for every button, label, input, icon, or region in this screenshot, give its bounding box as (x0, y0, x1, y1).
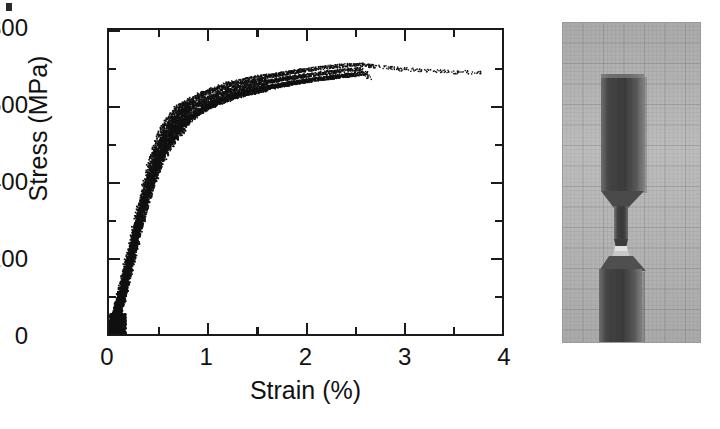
x-tick-label-0: 0 (100, 345, 113, 369)
x-tick-label-4: 4 (497, 345, 510, 369)
y-axis-title: Stress (MPa) (26, 29, 51, 229)
plot-frame (107, 28, 504, 336)
y-tick-label-800: 800 (0, 16, 28, 40)
x-tick-label-2: 2 (299, 345, 312, 369)
x-tick-label-1: 1 (200, 345, 213, 369)
scatter-data-layer (109, 30, 502, 334)
stress-strain-figure: 800 600 400 200 0 0 1 2 3 4 Stress (MPa)… (0, 0, 720, 429)
fractured-specimen-photograph (562, 22, 701, 343)
specimen-photo-image (562, 22, 701, 343)
y-tick-label-200: 200 (0, 247, 28, 271)
stress-strain-chart-panel: 800 600 400 200 0 0 1 2 3 4 Stress (MPa)… (0, 0, 540, 429)
x-tick-label-3: 3 (398, 345, 411, 369)
y-tick-label-0: 0 (15, 324, 28, 348)
x-axis-title: Strain (%) (107, 378, 504, 403)
